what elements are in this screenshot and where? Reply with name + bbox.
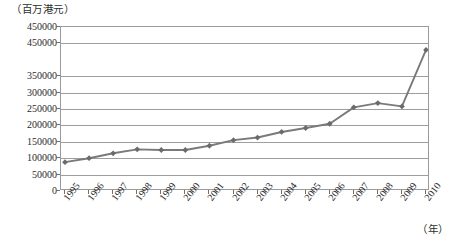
y-axis-tick-mark bbox=[56, 190, 60, 191]
y-axis-tick-label: 100000 bbox=[0, 152, 57, 163]
series-markers bbox=[62, 47, 429, 165]
y-axis-tick-mark bbox=[56, 92, 60, 93]
data-point-marker bbox=[158, 147, 164, 153]
data-point-marker bbox=[110, 150, 116, 156]
y-axis-tick-mark bbox=[56, 42, 60, 43]
y-axis-tick-label: 450000 bbox=[0, 37, 57, 48]
y-axis-tick-labels: 4500004500003500003000002500002000001500… bbox=[0, 0, 57, 248]
data-point-marker bbox=[231, 137, 237, 143]
y-axis-tick-label: 300000 bbox=[0, 86, 57, 97]
y-axis-tick-label: 0 bbox=[0, 185, 57, 196]
data-point-marker bbox=[86, 155, 92, 161]
y-axis-tick-label: 150000 bbox=[0, 135, 57, 146]
series-layer bbox=[61, 27, 429, 190]
data-point-marker bbox=[279, 129, 285, 135]
y-axis-tick-mark bbox=[56, 26, 60, 27]
y-axis-tick-mark bbox=[56, 141, 60, 142]
y-axis-tick-mark bbox=[56, 157, 60, 158]
data-point-marker bbox=[62, 159, 68, 165]
y-axis-tick-label: 50000 bbox=[0, 168, 57, 179]
series-line bbox=[65, 50, 426, 162]
data-point-marker bbox=[255, 135, 261, 141]
data-point-marker bbox=[399, 103, 405, 109]
y-axis-tick-label: 250000 bbox=[0, 103, 57, 114]
x-axis-unit-label: （年） bbox=[417, 221, 449, 236]
y-axis-tick-label: 200000 bbox=[0, 119, 57, 130]
y-axis-tick-mark bbox=[56, 108, 60, 109]
data-point-marker bbox=[182, 147, 188, 153]
data-point-marker bbox=[134, 146, 140, 152]
data-point-marker bbox=[423, 47, 429, 53]
data-point-marker bbox=[207, 143, 213, 149]
y-axis-tick-label: 350000 bbox=[0, 70, 57, 81]
line-chart: （百万港元） （年） 45000045000035000030000025000… bbox=[0, 0, 454, 248]
y-axis-tick-label: 450000 bbox=[0, 21, 57, 32]
plot-area bbox=[60, 26, 429, 190]
data-point-marker bbox=[375, 100, 381, 106]
y-axis-tick-mark bbox=[56, 174, 60, 175]
y-axis-tick-mark bbox=[56, 124, 60, 125]
data-point-marker bbox=[303, 125, 309, 131]
y-axis-tick-mark bbox=[56, 75, 60, 76]
